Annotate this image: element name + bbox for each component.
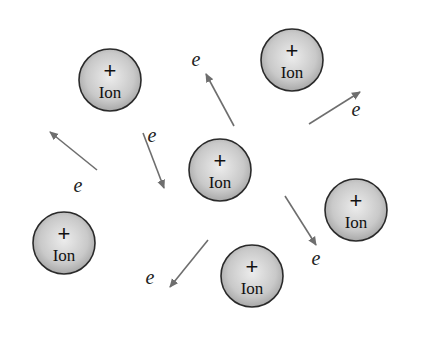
ion-top-right: +Ion	[261, 29, 323, 91]
positive-charge-icon: +	[350, 188, 363, 213]
positive-charge-icon: +	[104, 58, 117, 83]
velocity-arrow-icon	[50, 132, 97, 170]
electron-center-right: e	[285, 196, 321, 269]
ion-top-left: +Ion	[79, 49, 141, 111]
positive-charge-icon: +	[286, 38, 299, 63]
velocity-arrow-icon	[285, 196, 316, 245]
electron-top-right: e	[309, 92, 361, 124]
positive-charge-icon: +	[58, 221, 71, 246]
electron-center-left: e	[143, 124, 164, 188]
ion-electron-diagram: eeeeee +Ion+Ion+Ion+Ion+Ion+Ion	[0, 0, 423, 340]
velocity-arrow-icon	[206, 74, 234, 126]
ion-label: Ion	[241, 279, 264, 298]
ion-label: Ion	[209, 173, 232, 192]
electron-label: e	[74, 174, 83, 196]
ion-label: Ion	[281, 63, 304, 82]
electron-left: e	[50, 132, 97, 196]
ion-label: Ion	[53, 246, 76, 265]
electron-bottom-left: e	[146, 240, 208, 288]
ions-layer: +Ion+Ion+Ion+Ion+Ion+Ion	[33, 29, 387, 307]
ion-center: +Ion	[189, 139, 251, 201]
ion-right: +Ion	[325, 179, 387, 241]
electron-label: e	[352, 98, 361, 120]
positive-charge-icon: +	[214, 148, 227, 173]
diagram-svg: eeeeee +Ion+Ion+Ion+Ion+Ion+Ion	[0, 0, 423, 340]
velocity-arrow-icon	[170, 240, 208, 287]
electron-top-center: e	[192, 48, 234, 126]
ion-bottom-left: +Ion	[33, 212, 95, 274]
positive-charge-icon: +	[246, 254, 259, 279]
ion-bottom-center: +Ion	[221, 245, 283, 307]
electron-label: e	[148, 124, 157, 146]
electron-label: e	[192, 48, 201, 70]
electron-label: e	[312, 247, 321, 269]
electron-label: e	[146, 266, 155, 288]
ion-label: Ion	[99, 83, 122, 102]
ion-label: Ion	[345, 213, 368, 232]
